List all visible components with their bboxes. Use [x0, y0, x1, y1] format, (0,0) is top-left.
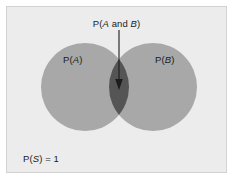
- label-intersection-suffix: ): [137, 18, 140, 29]
- label-set-a-prefix: P(: [63, 54, 73, 65]
- label-intersection: P(A and B): [93, 19, 140, 29]
- label-sample-space-prefix: P(: [23, 153, 33, 164]
- label-set-b-suffix: ): [171, 54, 174, 65]
- diagram-panel: P(A and B) P(A) P(B) P(S) = 1: [6, 6, 227, 173]
- label-set-b-prefix: P(: [155, 54, 165, 65]
- label-intersection-prefix: P(: [93, 18, 103, 29]
- label-set-b: P(B): [155, 55, 174, 65]
- label-sample-space-suffix: ) = 1: [39, 153, 59, 164]
- label-set-a-suffix: ): [79, 54, 82, 65]
- venn-diagram-figure: P(A and B) P(A) P(B) P(S) = 1: [0, 0, 233, 180]
- label-intersection-middle: and: [109, 18, 131, 29]
- label-sample-space: P(S) = 1: [23, 154, 59, 164]
- venn-artwork: [7, 7, 227, 173]
- label-set-a: P(A): [63, 55, 82, 65]
